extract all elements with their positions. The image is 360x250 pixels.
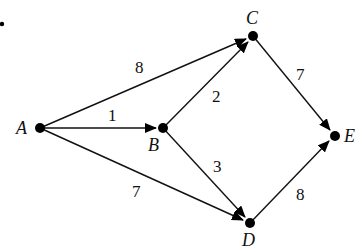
weight-d-e: 8 — [296, 185, 305, 204]
weight-a-c: 8 — [135, 58, 144, 77]
edge-b-c — [163, 42, 248, 128]
node-d — [245, 218, 255, 228]
bullet-dot — [0, 22, 4, 26]
label-e: E — [343, 126, 355, 146]
edge-c-e — [253, 36, 330, 130]
label-a: A — [15, 118, 28, 138]
graph-diagram: A B C D E 8 1 7 2 3 7 8 — [0, 0, 360, 250]
node-e — [330, 131, 340, 141]
label-c: C — [246, 8, 259, 28]
node-b — [158, 123, 168, 133]
weight-a-b: 1 — [108, 106, 117, 125]
weight-c-e: 7 — [296, 65, 305, 84]
node-a — [35, 123, 45, 133]
label-d: D — [241, 230, 255, 250]
weight-b-c: 2 — [212, 87, 221, 106]
edge-d-e — [250, 141, 329, 223]
edge-a-c — [40, 39, 246, 128]
weight-b-d: 3 — [213, 157, 222, 176]
weight-a-d: 7 — [132, 182, 141, 201]
label-b: B — [148, 135, 159, 155]
node-c — [248, 31, 258, 41]
edge-b-d — [163, 128, 245, 217]
